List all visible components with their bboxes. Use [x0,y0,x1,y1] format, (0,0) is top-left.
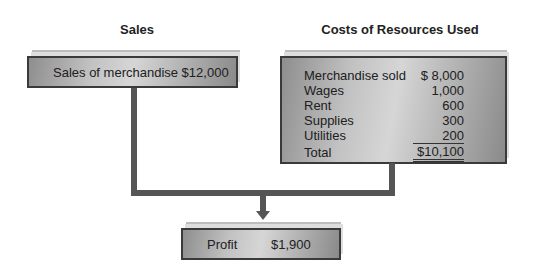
costs-box: Merchandise sold $ 8,000 Wages 1,000 Ren… [280,56,507,164]
cost-amount: $ 8,000 [413,68,464,83]
profit-box-shadow [186,222,341,224]
cost-label: Wages [304,83,413,98]
profit-label: Profit [207,237,237,252]
cost-total-label: Total [304,144,413,161]
cost-label: Utilities [304,128,413,144]
cost-amount: 600 [413,98,464,113]
cost-amount: 1,000 [413,83,464,98]
cost-total-row: Total $10,100 [304,144,464,161]
cost-row: Merchandise sold $ 8,000 [304,68,464,83]
sales-box-label: Sales of merchandise $12,000 [53,65,229,80]
cost-row: Utilities 200 [304,128,464,144]
sales-box: Sales of merchandise $12,000 [27,56,238,88]
cost-row: Rent 600 [304,98,464,113]
cost-label: Rent [304,98,413,113]
arrow-down-icon [256,211,270,220]
sales-connector-vertical [131,88,137,196]
profit-amount: $1,900 [271,237,311,252]
profit-connector-vertical [260,196,266,212]
cost-amount: 200 [413,128,464,144]
cost-row: Wages 1,000 [304,83,464,98]
costs-heading: Costs of Resources Used [300,22,500,37]
cost-total-amount: $10,100 [413,144,464,161]
cost-label: Supplies [304,113,413,128]
sales-box-shadow [32,50,240,52]
cost-amount: 300 [413,113,464,128]
costs-box-shadow [285,50,507,52]
profit-box: Profit $1,900 [181,228,341,260]
sales-heading: Sales [92,22,182,37]
cost-label: Merchandise sold [304,68,413,83]
cost-row: Supplies 300 [304,113,464,128]
costs-table: Merchandise sold $ 8,000 Wages 1,000 Ren… [304,68,464,162]
